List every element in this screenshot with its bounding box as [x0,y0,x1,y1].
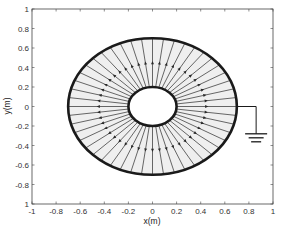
x-tick-label: -0.4 [97,207,111,216]
y-tick-label: -0.8 [15,181,29,190]
ground-wire [237,107,256,134]
x-tick-label: 0.6 [219,207,231,216]
x-axis-label: x(m) [144,216,161,226]
y-tick-label: 0.4 [18,64,30,73]
y-tick-label: 0.8 [18,25,30,34]
x-tick-label: 0 [150,207,155,216]
y-tick-label: -0.4 [15,142,29,151]
y-tick-label: 1 [25,5,30,14]
x-tick-label: -0.8 [49,207,63,216]
figure: -1-0.8-0.6-0.4-0.200.20.40.60.8110.80.60… [0,0,281,235]
y-tick-label: -0.2 [15,122,29,131]
y-tick-label: 0.2 [18,83,30,92]
x-tick-label: -1 [28,207,36,216]
x-tick-label: 0.2 [171,207,183,216]
ground-symbol-icon [237,107,267,142]
x-tick-label: 1 [271,207,276,216]
plot-area [68,38,267,175]
x-tick-label: 0.4 [195,207,207,216]
x-tick-label: -0.2 [122,207,136,216]
y-tick-label: 1 [25,200,30,209]
x-tick-label: -0.6 [73,207,87,216]
y-tick-label: -0.6 [15,161,29,170]
y-tick-label: 0.6 [18,44,30,53]
x-tick-label: 0.8 [243,207,255,216]
y-tick-label: 0 [25,103,30,112]
y-axis-label: y(m) [2,97,12,114]
